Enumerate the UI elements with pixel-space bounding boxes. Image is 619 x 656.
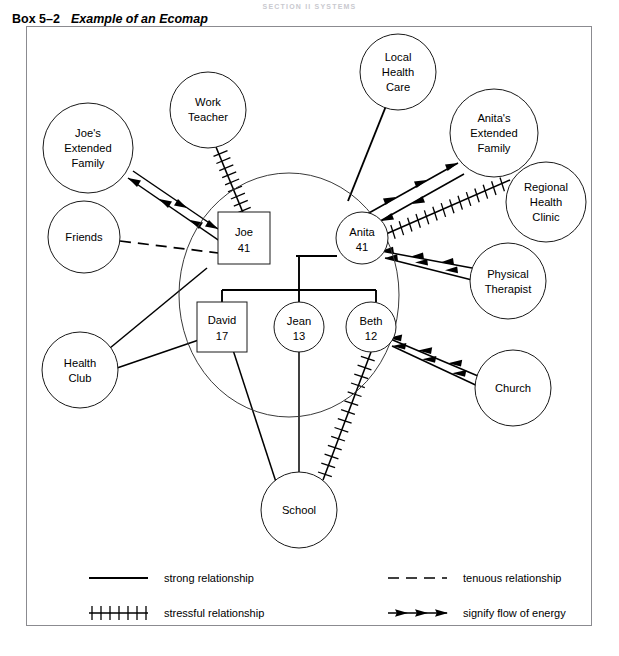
box-title-text: Example of an Ecomap xyxy=(71,12,208,26)
box-frame xyxy=(26,26,592,626)
box-title: Box 5–2Example of an Ecomap xyxy=(12,12,208,26)
box-number: Box 5–2 xyxy=(12,12,60,26)
ecomap-page: SECTION II SYSTEMS Box 5–2Example of an … xyxy=(0,0,619,656)
